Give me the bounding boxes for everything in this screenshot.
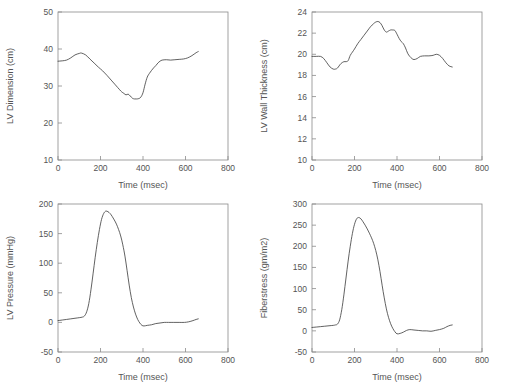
x-axis-ticks: 0200400600800 — [310, 348, 490, 365]
x-tick-label: 800 — [221, 163, 235, 173]
y-tick-label: 300 — [293, 199, 307, 209]
x-tick-label: 600 — [432, 355, 446, 365]
x-tick-label: 0 — [310, 163, 315, 173]
lv-dimension-plot: 1020304050 0200400600800 LV Dimension (c… — [0, 0, 254, 192]
y-tick-label: 50 — [44, 288, 54, 298]
y-tick-label: 16 — [298, 92, 308, 102]
x-tick-label: 0 — [56, 355, 61, 365]
x-axis-title: Time (msec) — [372, 372, 422, 382]
x-axis-ticks: 0200400600800 — [56, 348, 236, 365]
x-axis-ticks: 0200400600800 — [310, 156, 490, 173]
y-tick-label: 10 — [298, 155, 308, 165]
y-tick-label: -50 — [41, 347, 54, 357]
plot-frame — [58, 12, 228, 160]
data-curve — [312, 21, 452, 69]
y-tick-label: -50 — [295, 347, 308, 357]
y-axis-title: LV Pressure (mmHg) — [5, 236, 15, 320]
x-tick-label: 400 — [390, 163, 404, 173]
y-tick-label: 20 — [44, 118, 54, 128]
x-tick-label: 600 — [178, 163, 192, 173]
y-tick-label: 30 — [44, 81, 54, 91]
y-tick-label: 100 — [293, 284, 307, 294]
x-axis-title: Time (msec) — [118, 372, 168, 382]
y-tick-label: 10 — [44, 155, 54, 165]
plot-frame — [58, 204, 228, 352]
x-tick-label: 400 — [136, 163, 150, 173]
y-tick-label: 100 — [39, 258, 53, 268]
y-axis-ticks: -50050100150200 — [39, 199, 62, 357]
y-axis-ticks: 1020304050 — [44, 7, 62, 165]
y-tick-label: 14 — [298, 113, 308, 123]
x-tick-label: 200 — [93, 163, 107, 173]
y-tick-label: 250 — [293, 220, 307, 230]
y-axis-title: LV Dimension (cm) — [5, 48, 15, 124]
x-tick-label: 600 — [178, 355, 192, 365]
x-axis-title: Time (msec) — [372, 180, 422, 190]
x-tick-label: 0 — [56, 163, 61, 173]
y-tick-label: 150 — [293, 262, 307, 272]
y-tick-label: 40 — [44, 44, 54, 54]
y-tick-label: 18 — [298, 70, 308, 80]
x-tick-label: 600 — [432, 163, 446, 173]
plot-frame — [312, 204, 482, 352]
x-tick-label: 200 — [93, 355, 107, 365]
y-axis-title: LV Wall Thickness (cm) — [259, 39, 269, 132]
y-axis-ticks: -50050100150200250300 — [293, 199, 316, 357]
y-tick-label: 50 — [298, 305, 308, 315]
lv-pressure-plot: -50050100150200 0200400600800 LV Pressur… — [0, 192, 254, 384]
y-tick-label: 24 — [298, 7, 308, 17]
lv-wall-thickness-plot: 1012141618202224 0200400600800 LV Wall T… — [254, 0, 509, 192]
y-tick-label: 12 — [298, 134, 308, 144]
x-tick-label: 800 — [475, 163, 489, 173]
y-tick-label: 150 — [39, 229, 53, 239]
y-tick-label: 50 — [44, 7, 54, 17]
y-tick-label: 20 — [298, 49, 308, 59]
x-axis-title: Time (msec) — [118, 180, 168, 190]
x-tick-label: 200 — [347, 163, 361, 173]
data-curve — [58, 211, 198, 326]
x-tick-label: 400 — [390, 355, 404, 365]
y-tick-label: 200 — [293, 241, 307, 251]
y-axis-title: Fiberstress (gm/m2) — [259, 238, 269, 319]
chart-panel-lv-dimension: 1020304050 0200400600800 LV Dimension (c… — [0, 0, 254, 192]
x-tick-label: 0 — [310, 355, 315, 365]
y-tick-label: 0 — [302, 326, 307, 336]
data-curve — [58, 52, 198, 99]
chart-panel-fiberstress: -50050100150200250300 0200400600800 Fibe… — [254, 192, 509, 384]
x-tick-label: 800 — [221, 355, 235, 365]
y-tick-label: 200 — [39, 199, 53, 209]
x-tick-label: 200 — [347, 355, 361, 365]
x-axis-ticks: 0200400600800 — [56, 156, 236, 173]
chart-panel-lv-wall-thickness: 1012141618202224 0200400600800 LV Wall T… — [254, 0, 509, 192]
y-axis-ticks: 1012141618202224 — [298, 7, 316, 165]
figure-panel-grid: 1020304050 0200400600800 LV Dimension (c… — [0, 0, 509, 384]
chart-panel-lv-pressure: -50050100150200 0200400600800 LV Pressur… — [0, 192, 254, 384]
fiberstress-plot: -50050100150200250300 0200400600800 Fibe… — [254, 192, 509, 384]
data-curve — [312, 218, 452, 334]
y-tick-label: 22 — [298, 28, 308, 38]
x-tick-label: 800 — [475, 355, 489, 365]
x-tick-label: 400 — [136, 355, 150, 365]
y-tick-label: 0 — [48, 317, 53, 327]
